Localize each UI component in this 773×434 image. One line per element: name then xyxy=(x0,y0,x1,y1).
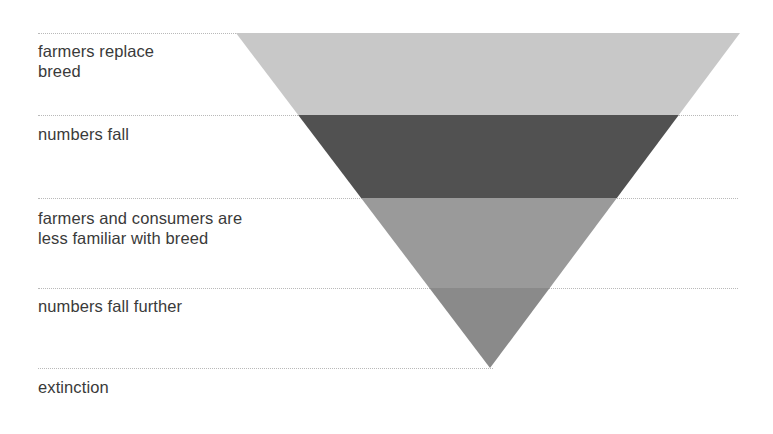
separator-line-5 xyxy=(38,368,493,369)
stage-label-1: farmers replace breed xyxy=(38,41,154,81)
separator-line-4 xyxy=(38,288,738,289)
stage-label-5: extinction xyxy=(38,377,109,397)
stage-label-4: numbers fall further xyxy=(38,296,182,316)
funnel-diagram: farmers replace breednumbers fallfarmers… xyxy=(0,0,773,434)
stage-label-3: farmers and consumers are less familiar … xyxy=(38,208,242,248)
separator-line-1 xyxy=(38,33,738,34)
separator-line-2 xyxy=(38,115,738,116)
separator-line-3 xyxy=(38,198,738,199)
stage-label-2: numbers fall xyxy=(38,124,129,144)
